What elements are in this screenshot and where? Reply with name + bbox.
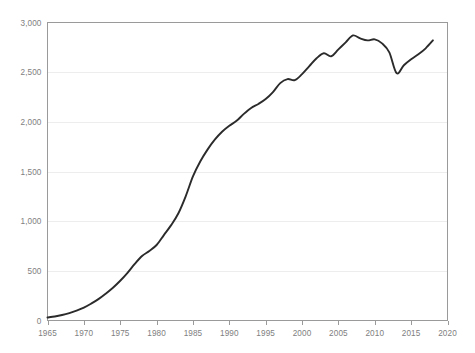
series-line-1 xyxy=(48,35,433,317)
y-axis-tick-label: 500 xyxy=(28,267,42,276)
x-axis-tick-label: 2000 xyxy=(293,329,312,338)
x-axis-tick-label: 1990 xyxy=(220,329,239,338)
gridlines xyxy=(48,73,448,272)
line-chart: 05001,0001,5002,0002,5003,000 1965197019… xyxy=(0,0,475,353)
x-axis-tick-label: 1985 xyxy=(184,329,203,338)
data-series-group xyxy=(48,35,433,317)
x-axis-tick-labels: 1965197019751980198519901995200020052010… xyxy=(38,329,457,338)
x-axis-tick-label: 1995 xyxy=(256,329,275,338)
x-axis-tick-label: 2010 xyxy=(365,329,384,338)
x-axis-tick-label: 2020 xyxy=(438,329,457,338)
x-axis-tick-label: 2005 xyxy=(329,329,348,338)
x-axis-tick-label: 1980 xyxy=(147,329,166,338)
chart-canvas: 05001,0001,5002,0002,5003,000 1965197019… xyxy=(0,0,475,353)
y-axis-tick-label: 2,000 xyxy=(21,118,42,127)
plot-border xyxy=(48,23,448,321)
y-axis-tick-label: 1,500 xyxy=(21,168,42,177)
y-axis-tick-label: 3,000 xyxy=(21,19,42,28)
y-axis-tick-labels: 05001,0001,5002,0002,5003,000 xyxy=(21,19,42,326)
x-axis-ticks xyxy=(49,321,449,325)
y-axis-tick-label: 2,500 xyxy=(21,68,42,77)
x-axis-tick-label: 1970 xyxy=(75,329,94,338)
y-axis-tick-label: 0 xyxy=(37,317,42,326)
x-axis-tick-label: 2015 xyxy=(402,329,421,338)
x-axis-tick-label: 1975 xyxy=(111,329,130,338)
y-axis-tick-label: 1,000 xyxy=(21,217,42,226)
x-axis-tick-label: 1965 xyxy=(38,329,57,338)
plot-area-border xyxy=(48,23,448,321)
